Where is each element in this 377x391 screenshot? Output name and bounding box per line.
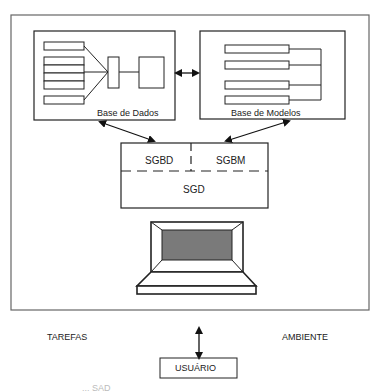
db-manager-arrow	[100, 122, 154, 141]
sgbd-label: SGBD	[145, 155, 173, 166]
tasks-label: TAREFAS	[47, 332, 87, 342]
computer-icon	[137, 222, 256, 294]
sgbm-label: SGBM	[216, 155, 245, 166]
database-label: Base de Dados	[97, 108, 159, 118]
database-box	[34, 31, 175, 120]
manager-box	[121, 143, 268, 208]
sgd-label: SGD	[183, 184, 205, 195]
model-manager-arrow	[226, 121, 289, 141]
environment-label: AMBIENTE	[282, 332, 328, 342]
user-label: USUÁRIO	[175, 363, 216, 373]
model-base-box	[200, 31, 345, 119]
caption-fragment: ... SAD	[82, 383, 111, 391]
model-base-label: Base de Modelos	[231, 108, 301, 118]
